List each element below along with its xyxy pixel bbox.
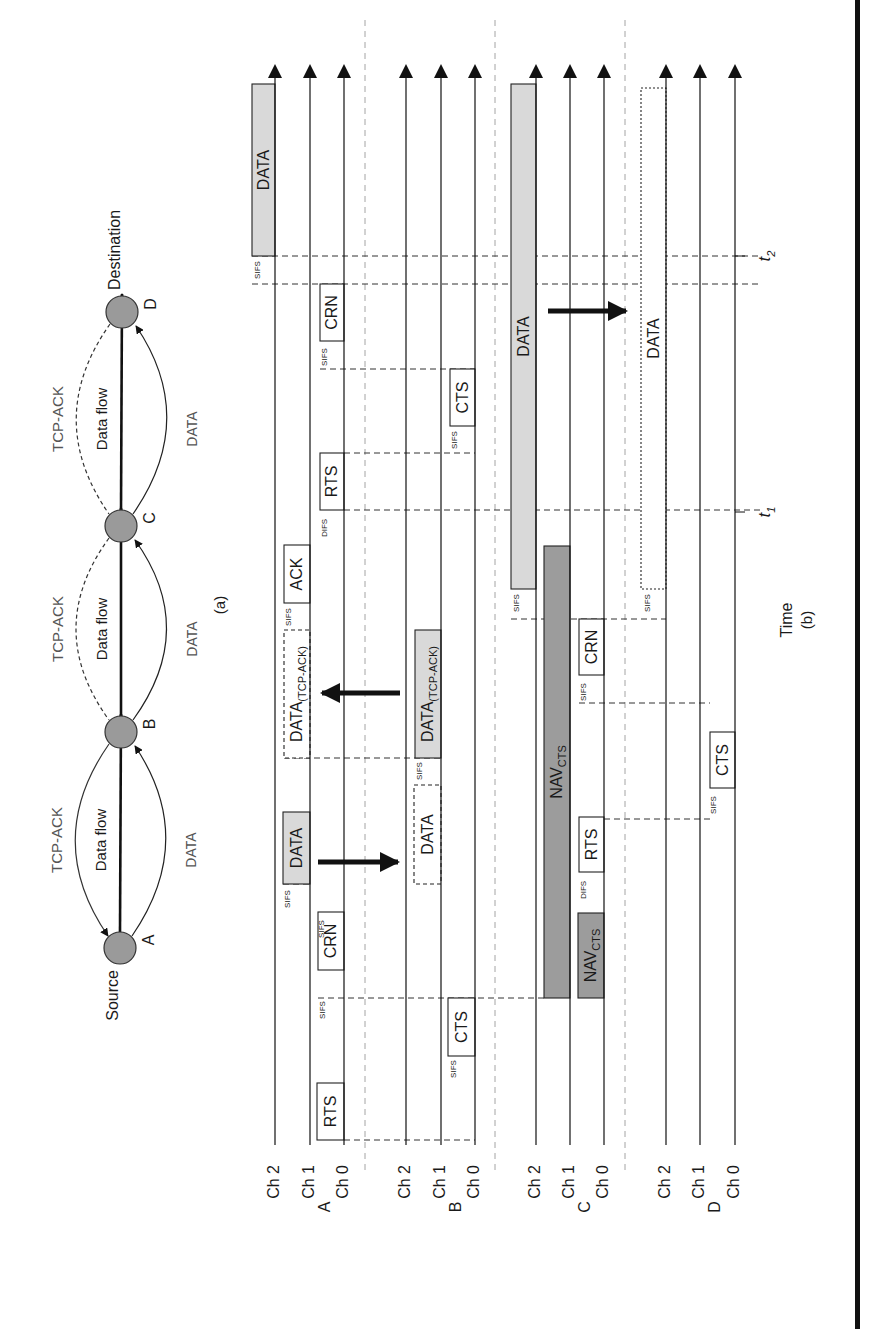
gap-label: SIFS: [579, 683, 588, 701]
channel-label: Ch 0: [465, 1165, 482, 1199]
frame-label-main: CTS: [454, 382, 471, 414]
node-label: B: [141, 719, 158, 730]
frame-label-main: RTS: [322, 1096, 339, 1128]
frame-label-main: CRN: [583, 630, 600, 665]
data-flow-label: Data flow: [93, 388, 110, 451]
frame-label: RTS: [583, 829, 600, 861]
node-b: [105, 716, 137, 748]
axis-arrowhead-icon: [659, 64, 673, 78]
frame-label-sub: (TCP-ACK): [296, 646, 308, 702]
channel-labels: Ch 2Ch 1Ch 0ACh 2Ch 1Ch 0BCh 2Ch 1Ch 0CC…: [265, 1165, 742, 1213]
time-marker-label: t1: [755, 507, 777, 518]
frame-label: DATA: [419, 814, 436, 855]
data-flow-label: Data flow: [92, 809, 109, 872]
station-label: C: [576, 1201, 593, 1213]
panel-b-caption: (b): [798, 611, 815, 629]
axis-arrowhead-icon: [597, 64, 611, 78]
time-marker-label: t2: [755, 251, 777, 262]
channel-label: Ch 2: [526, 1165, 543, 1199]
data-hop-label: DATA: [184, 621, 200, 657]
channel-label: Ch 1: [300, 1165, 317, 1199]
panel-a-caption: (a): [211, 596, 228, 614]
axis-arrowhead-icon: [399, 64, 413, 78]
time-axis-label: Time: [778, 602, 795, 637]
data-hop-label: DATA: [183, 832, 199, 868]
gap-label: DIFS: [320, 519, 329, 537]
gap-label: DIFS: [579, 881, 588, 899]
frame-label: CTS: [453, 1011, 470, 1043]
tcp-ack-label: TCP-ACK: [48, 807, 65, 873]
tcp-ack-label: TCP-ACK: [49, 596, 66, 662]
channel-label: Ch 0: [725, 1165, 742, 1199]
node-role-label: Source: [104, 970, 121, 1021]
station-label: D: [706, 1201, 723, 1213]
frame-label-main: DATA: [515, 316, 532, 357]
axis-arrowhead-icon: [434, 64, 448, 78]
data-flow-label: Data flow: [93, 598, 110, 661]
gap-label: SIFS: [284, 608, 293, 626]
data-hop-arc: [133, 326, 167, 514]
node-label: A: [140, 934, 157, 945]
frame-label-sub: (TCP-ACK): [427, 646, 439, 702]
channel-label: Ch 1: [431, 1165, 448, 1199]
frame-label-main: DATA: [288, 701, 305, 742]
gap-label: SIFS: [449, 1060, 458, 1078]
gap-label: SIFS: [450, 431, 459, 449]
channel-label: Ch 0: [594, 1165, 611, 1199]
gap-label: SIFS: [709, 796, 718, 814]
frame-label: DATA: [645, 318, 662, 359]
axis-arrowhead-icon: [303, 64, 317, 78]
frame-label-main: RTS: [583, 829, 600, 861]
time-marker-sub: 1: [765, 507, 777, 513]
tcp-ack-label: TCP-ACK: [49, 386, 66, 452]
station-label: A: [316, 1201, 333, 1212]
frame-label-main: CTS: [714, 744, 731, 776]
time-markers: t1t2: [735, 251, 777, 518]
frame-label: RTS: [322, 1096, 339, 1128]
axis-arrowhead-icon: [728, 64, 742, 78]
frame-label: DATA: [288, 828, 305, 869]
frame-label-main: NAV: [548, 767, 565, 799]
frames: RTSCRNDATADATA(TCP-ACK)ACKRTSCRNDATACTSD…: [252, 84, 735, 1140]
sync-dashed-lines: [252, 256, 760, 1140]
gap-label: SIFS: [283, 890, 292, 908]
page-border-rule: [855, 0, 860, 1329]
figure-canvas: Data flowDATATCP-ACKData flowDATATCP-ACK…: [0, 0, 872, 1329]
frame-label-main: CRN: [323, 295, 340, 330]
frame-label-main: DATA: [255, 150, 272, 191]
protocol-timing-figure: Data flowDATATCP-ACKData flowDATATCP-ACK…: [0, 0, 872, 1329]
frame-label-main: DATA: [419, 701, 436, 742]
frame-label: ACK: [288, 557, 305, 590]
frame-label: CRN: [323, 295, 340, 330]
gap-label: SIFS: [415, 762, 424, 780]
node-label: D: [142, 298, 159, 310]
frame-label: CRN: [583, 630, 600, 665]
node-c: [105, 510, 137, 542]
axis-arrowhead-icon: [529, 64, 543, 78]
topology-panel: Data flowDATATCP-ACKData flowDATATCP-ACK…: [48, 210, 200, 1021]
frame-label-main: DATA: [288, 828, 305, 869]
frame-label: CTS: [454, 382, 471, 414]
node-label: C: [141, 512, 158, 524]
axis-arrowhead-icon: [563, 64, 577, 78]
node-a: [104, 932, 136, 964]
frame-label-main: RTS: [323, 466, 340, 498]
frame-label: DATA: [515, 316, 532, 357]
axis-arrowhead-icon: [468, 64, 482, 78]
channel-label: Ch 2: [396, 1165, 413, 1199]
channel-axes: [268, 64, 742, 1145]
gap-label: SIFS: [512, 594, 521, 612]
gap-label: SIFS: [253, 261, 262, 279]
gap-label: SIFS: [320, 348, 329, 366]
node-role-label: Destination: [106, 210, 123, 290]
frame-label: RTS: [323, 466, 340, 498]
axis-arrowhead-icon: [693, 64, 707, 78]
axis-arrowhead-icon: [337, 64, 351, 78]
frame-label: DATA: [255, 150, 272, 191]
axis-arrowhead-icon: [268, 64, 282, 78]
channel-label: Ch 0: [334, 1165, 351, 1199]
channel-label: Ch 2: [656, 1165, 673, 1199]
channel-label: Ch 1: [560, 1165, 577, 1199]
data-hop-arc: [132, 746, 166, 936]
node-d: [106, 296, 138, 328]
